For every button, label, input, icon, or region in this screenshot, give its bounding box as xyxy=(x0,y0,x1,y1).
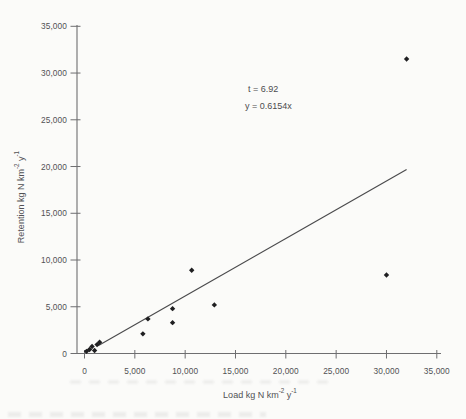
x-tick-label: 5,000 xyxy=(124,366,146,376)
y-tick-label: 35,000 xyxy=(41,21,67,31)
x-tick-label: 15,000 xyxy=(222,366,248,376)
x-axis-title-sup-y: -1 xyxy=(291,387,297,394)
y-tick-label: 30,000 xyxy=(41,68,67,78)
x-tick-label: 30,000 xyxy=(373,366,399,376)
y-tick-label: 10,000 xyxy=(41,255,67,265)
y-axis-title-text: Retention kg N km xyxy=(16,169,26,243)
y-axis-title-sup-km: -2 xyxy=(13,163,20,169)
trend-line-group xyxy=(98,169,407,345)
trend-line xyxy=(98,169,407,345)
scatter-chart-figure: 05,00010,00015,00020,00025,00030,00035,0… xyxy=(0,0,466,419)
data-point xyxy=(170,320,175,325)
data-point xyxy=(170,306,175,311)
y-tick-labels: 05,00010,00015,00020,00025,00030,00035,0… xyxy=(41,21,67,358)
x-tick-labels: 05,00010,00015,00020,00025,00030,00035,0… xyxy=(82,366,450,376)
x-axis-title: Load kg N km-2 y-1 xyxy=(223,388,297,400)
y-tick-label: 5,000 xyxy=(46,302,68,312)
data-point xyxy=(92,348,97,353)
annotation-regression-equation: y = 0.6154x xyxy=(245,101,292,111)
data-point xyxy=(384,272,389,277)
y-tick-label: 15,000 xyxy=(41,208,67,218)
x-tick-label: 20,000 xyxy=(273,366,299,376)
data-point xyxy=(189,268,194,273)
x-tick-label: 10,000 xyxy=(172,366,198,376)
y-axis-title-sup-y: -1 xyxy=(13,151,20,157)
annotation-t-statistic: t = 6.92 xyxy=(248,84,278,94)
x-tick-label: 25,000 xyxy=(323,366,349,376)
data-point xyxy=(212,302,217,307)
scatter-plot-canvas: 05,00010,00015,00020,00025,00030,00035,0… xyxy=(0,0,466,419)
data-point xyxy=(404,56,409,61)
y-tick-label: 25,000 xyxy=(41,115,67,125)
axes xyxy=(77,25,441,354)
data-point xyxy=(140,331,145,336)
x-axis-title-sup-km: -2 xyxy=(279,387,285,394)
x-axis-ticks xyxy=(85,350,437,359)
x-tick-label: 0 xyxy=(82,366,87,376)
data-point xyxy=(145,316,150,321)
y-axis-title: Retention kg N km-2 y-1 xyxy=(14,151,26,243)
x-tick-label: 35,000 xyxy=(424,366,450,376)
y-tick-label: 0 xyxy=(62,349,67,359)
y-tick-label: 20,000 xyxy=(41,162,67,172)
y-axis-ticks xyxy=(71,26,81,353)
x-axis-title-text: Load kg N km xyxy=(223,390,279,400)
